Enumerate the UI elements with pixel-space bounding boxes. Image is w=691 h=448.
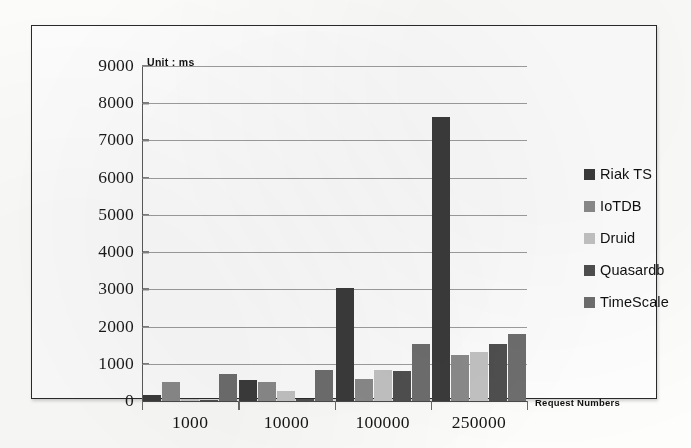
- plot-area: [142, 66, 527, 401]
- legend-label: IoTDB: [600, 198, 642, 214]
- legend-swatch-timescale-icon: [584, 297, 595, 308]
- bar-timescale-10000[interactable]: [315, 370, 333, 401]
- bar-group-100000: [335, 66, 431, 401]
- legend-item-quasardb[interactable]: Quasardb: [584, 262, 689, 278]
- y-tick-label: 3000: [98, 278, 134, 299]
- bar-iotdb-10000[interactable]: [258, 382, 276, 401]
- legend-swatch-iotdb-icon: [584, 201, 595, 212]
- legend-item-riak-ts[interactable]: Riak TS: [584, 166, 689, 182]
- x-tick: [142, 401, 143, 410]
- y-tick-label: 8000: [98, 92, 134, 113]
- bar-iotdb-250000[interactable]: [451, 355, 469, 401]
- y-tick-label: 6000: [98, 167, 134, 188]
- x-axis-label-1000: 1000: [142, 412, 238, 438]
- x-tick: [527, 401, 528, 410]
- legend-label: Druid: [600, 230, 635, 246]
- y-tick-label: 0: [125, 390, 134, 411]
- bar-wrap: [239, 370, 333, 401]
- bar-iotdb-1000[interactable]: [162, 382, 180, 401]
- legend-item-timescale[interactable]: TimeScale: [584, 294, 689, 310]
- bar-druid-10000[interactable]: [277, 391, 295, 401]
- y-tick-label: 1000: [98, 353, 134, 374]
- chart-container: 9000800070006000500040003000200010000 Un…: [31, 25, 657, 399]
- bar-riak-ts-100000[interactable]: [336, 288, 354, 401]
- y-axis: 9000800070006000500040003000200010000: [50, 66, 134, 401]
- y-tick-label: 5000: [98, 204, 134, 225]
- legend-swatch-quasardb-icon: [584, 265, 595, 276]
- bar-druid-100000[interactable]: [374, 370, 392, 401]
- chart-legend: Riak TSIoTDBDruidQuasardbTimeScale: [584, 166, 689, 310]
- bar-quasardb-250000[interactable]: [489, 344, 507, 401]
- x-axis-label-10000: 10000: [238, 412, 334, 438]
- bar-riak-ts-10000[interactable]: [239, 380, 257, 401]
- x-axis-label-100000: 100000: [335, 412, 431, 438]
- y-tick-label: 4000: [98, 241, 134, 262]
- bar-timescale-100000[interactable]: [412, 344, 430, 401]
- y-tick-label: 9000: [98, 55, 134, 76]
- legend-swatch-riak-ts-icon: [584, 169, 595, 180]
- legend-label: Riak TS: [600, 166, 652, 182]
- bar-group-250000: [431, 66, 527, 401]
- bar-quasardb-100000[interactable]: [393, 371, 411, 401]
- legend-item-iotdb[interactable]: IoTDB: [584, 198, 689, 214]
- bar-timescale-1000[interactable]: [219, 374, 237, 401]
- y-tick-label: 7000: [98, 130, 134, 151]
- x-tick: [431, 401, 432, 410]
- legend-label: TimeScale: [600, 294, 669, 310]
- bar-group-1000: [142, 66, 238, 401]
- bar-riak-ts-250000[interactable]: [432, 117, 450, 401]
- x-tick: [335, 401, 336, 410]
- bar-group-10000: [238, 66, 334, 401]
- bar-wrap: [432, 117, 526, 401]
- legend-swatch-druid-icon: [584, 233, 595, 244]
- x-axis-labels: 100010000100000250000: [142, 412, 527, 438]
- x-tick: [238, 401, 239, 410]
- bar-groups: [142, 66, 527, 401]
- x-axis-title: Request Numbers: [535, 397, 620, 408]
- legend-item-druid[interactable]: Druid: [584, 230, 689, 246]
- y-tick-label: 2000: [98, 316, 134, 337]
- bar-wrap: [143, 374, 237, 401]
- legend-label: Quasardb: [600, 262, 664, 278]
- bar-timescale-250000[interactable]: [508, 334, 526, 401]
- bar-iotdb-100000[interactable]: [355, 379, 373, 401]
- x-axis-label-250000: 250000: [431, 412, 527, 438]
- bar-druid-250000[interactable]: [470, 352, 488, 401]
- bar-wrap: [336, 288, 430, 401]
